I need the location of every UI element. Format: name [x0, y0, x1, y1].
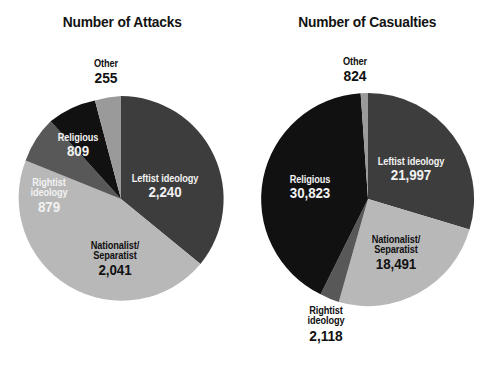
- pie-chart-figure: Number of Attacks Leftist ideology 2,240: [0, 0, 489, 370]
- pie-casualties: [245, 0, 489, 370]
- chart-panel-attacks: Number of Attacks Leftist ideology 2,240: [0, 0, 245, 370]
- chart-panel-casualties: Number of Casualties Leftist ideology 21…: [245, 0, 489, 370]
- pie-attacks: [0, 0, 244, 370]
- pie-attacks-svg: [0, 0, 244, 370]
- pie-casualties-svg: [245, 0, 489, 370]
